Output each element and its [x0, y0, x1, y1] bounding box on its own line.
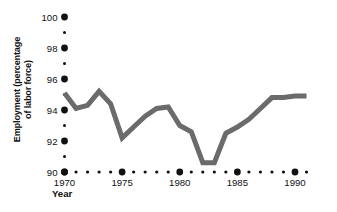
- x-tick-label: 1990: [284, 177, 305, 188]
- x-minor-tick-dot: [213, 170, 216, 173]
- x-minor-tick-dot: [224, 170, 227, 173]
- y-tick-dot: [61, 76, 68, 83]
- x-minor-tick-dot: [86, 170, 89, 173]
- x-minor-tick-dot: [132, 170, 135, 173]
- x-minor-tick-dot: [270, 170, 273, 173]
- y-tick-label: 94: [47, 105, 58, 116]
- x-minor-tick-dot: [74, 170, 77, 173]
- x-axis-tick-dots: [61, 169, 308, 176]
- x-minor-tick-dot: [305, 170, 308, 173]
- x-minor-tick-dot: [247, 170, 250, 173]
- x-tick-dot: [119, 169, 126, 176]
- x-tick-dot: [292, 169, 299, 176]
- y-tick-label: 98: [47, 43, 58, 54]
- y-tick-dot: [61, 107, 68, 114]
- line-chart-plot: 9092949698100 19701975198019851990: [0, 0, 337, 212]
- x-minor-tick-dot: [155, 170, 158, 173]
- x-tick-label: 1970: [54, 177, 75, 188]
- y-tick-label: 96: [47, 74, 58, 85]
- y-minor-tick-dot: [63, 155, 66, 158]
- x-minor-tick-dot: [167, 170, 170, 173]
- x-minor-tick-dot: [144, 170, 147, 173]
- data-series-employment: [65, 91, 307, 162]
- x-axis-tick-labels: 19701975198019851990: [54, 177, 306, 188]
- x-axis-title: Year: [52, 188, 72, 199]
- x-minor-tick-dot: [282, 170, 285, 173]
- x-minor-tick-dot: [97, 170, 100, 173]
- y-tick-label: 100: [41, 12, 57, 23]
- y-minor-tick-dot: [63, 31, 66, 34]
- y-tick-dot: [61, 14, 68, 21]
- x-minor-tick-dot: [201, 170, 204, 173]
- x-tick-dot: [61, 169, 68, 176]
- x-tick-label: 1985: [227, 177, 248, 188]
- y-tick-label: 92: [47, 136, 58, 147]
- y-axis-tick-labels: 9092949698100: [41, 12, 58, 178]
- x-tick-dot: [234, 169, 241, 176]
- x-tick-label: 1980: [169, 177, 190, 188]
- x-minor-tick-dot: [109, 170, 112, 173]
- y-tick-dot: [61, 138, 68, 145]
- y-minor-tick-dot: [63, 124, 66, 127]
- data-series-group: [65, 91, 307, 162]
- y-tick-dot: [61, 45, 68, 52]
- x-tick-dot: [176, 169, 183, 176]
- x-tick-label: 1975: [111, 177, 132, 188]
- y-minor-tick-dot: [63, 62, 66, 65]
- x-minor-tick-dot: [190, 170, 193, 173]
- chart-page: Employment (percentage of labor force) 9…: [0, 0, 337, 212]
- x-minor-tick-dot: [259, 170, 262, 173]
